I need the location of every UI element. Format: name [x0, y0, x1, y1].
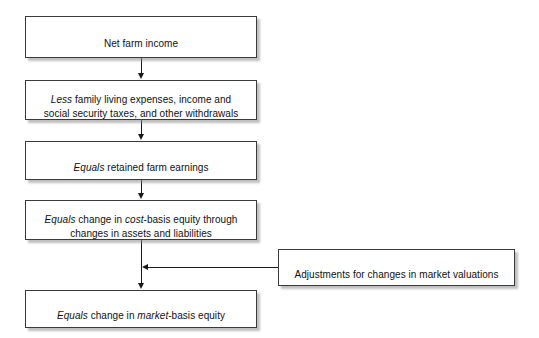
node-less-family-living-expenses-label: Less family living expenses, income and … — [38, 80, 245, 121]
arrowhead-retained-to-cost-basis — [138, 193, 144, 199]
emphasis-equals-cost: Equals — [45, 214, 76, 225]
arrowhead-adjustments-to-spine — [142, 264, 148, 270]
arrowhead-cost-basis-to-market-basis — [138, 283, 144, 289]
emphasis-less: Less — [51, 94, 72, 105]
node-equals-change-market-basis-equity-label: Equals change in market-basis equity — [51, 296, 231, 323]
node-less-family-living-expenses[interactable]: Less family living expenses, income and … — [25, 80, 257, 120]
connector-income-to-less — [141, 58, 142, 74]
connector-less-to-retained — [141, 120, 142, 135]
node-adjustments-market-valuations[interactable]: Adjustments for changes in market valuat… — [278, 249, 515, 286]
node-adjustments-market-valuations-label: Adjustments for changes in market valuat… — [289, 254, 505, 281]
node-equals-retained-farm-earnings-label: Equals retained farm earnings — [68, 147, 215, 174]
arrowhead-income-to-less — [138, 73, 144, 79]
emphasis-equals-market: Equals — [57, 310, 88, 321]
connector-retained-to-cost-basis — [141, 180, 142, 194]
node-equals-change-cost-basis-equity-label: Equals change in cost-basis equity throu… — [39, 200, 244, 241]
node-net-farm-income-label: Net farm income — [98, 24, 184, 51]
connector-adjustments-to-spine — [147, 267, 278, 268]
emphasis-cost: cost — [125, 214, 144, 225]
node-equals-change-cost-basis-equity[interactable]: Equals change in cost-basis equity throu… — [25, 200, 257, 240]
emphasis-market: market — [137, 310, 168, 321]
arrowhead-less-to-retained — [138, 134, 144, 140]
flowchart-canvas: Net farm income Less family living expen… — [0, 0, 539, 338]
node-equals-retained-farm-earnings[interactable]: Equals retained farm earnings — [25, 141, 257, 180]
node-net-farm-income[interactable]: Net farm income — [25, 16, 257, 58]
connector-cost-basis-to-market-basis — [141, 240, 142, 284]
node-equals-change-market-basis-equity[interactable]: Equals change in market-basis equity — [25, 290, 257, 328]
emphasis-equals: Equals — [74, 162, 105, 173]
